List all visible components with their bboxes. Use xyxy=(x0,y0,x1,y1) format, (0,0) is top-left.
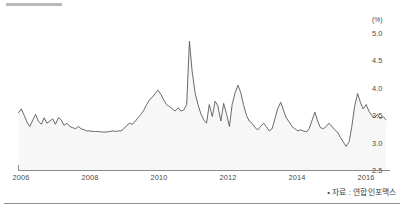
series-area-fill xyxy=(19,41,387,170)
y-tick-label-5-0: 5.0 xyxy=(372,29,383,38)
x-tick-label-2016: 2016 xyxy=(358,173,375,182)
chart-page: (%) 5.0 4.5 4.0 3.5 3.0 2.5 2006 2008 20… xyxy=(0,0,404,210)
line-chart: (%) 5.0 4.5 4.0 3.5 3.0 2.5 2006 2008 20… xyxy=(0,0,404,210)
y-tick-label-3-5: 3.5 xyxy=(372,111,383,120)
x-tick-label-2012: 2012 xyxy=(220,173,237,182)
x-tick-label-2010: 2010 xyxy=(151,173,168,182)
bottom-divider xyxy=(4,203,400,204)
x-tick-label-2008: 2008 xyxy=(82,173,99,182)
x-tick-label-2006: 2006 xyxy=(13,173,30,182)
x-tick-label-2014: 2014 xyxy=(289,173,306,182)
y-tick-label-3-0: 3.0 xyxy=(372,139,383,148)
y-axis-labels: (%) 5.0 4.5 4.0 3.5 3.0 2.5 xyxy=(372,0,404,185)
y-axis-unit-label: (%) xyxy=(372,16,383,23)
x-axis-labels: 2006 2008 2010 2012 2014 2016 xyxy=(0,173,404,187)
y-tick-label-4-0: 4.0 xyxy=(372,84,383,93)
source-note: • 자료 : 연합인포맥스 xyxy=(327,186,396,197)
y-tick-label-4-5: 4.5 xyxy=(372,56,383,65)
